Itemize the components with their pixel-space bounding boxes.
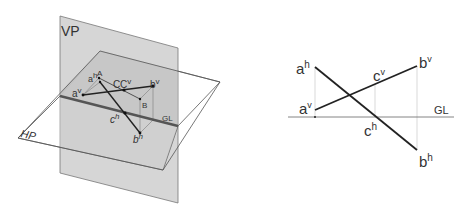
- gl-label-right: GL: [434, 104, 449, 116]
- label-b-h-right: bh: [419, 152, 433, 170]
- label-c-h-right: ch: [364, 121, 377, 139]
- hp-label: HP: [20, 127, 38, 142]
- projection-diagram: VP HP GL A B av ah C Cv bv ch bh GL ah a…: [0, 0, 463, 219]
- vp-label: VP: [61, 23, 80, 39]
- gl-label-left: GL: [162, 114, 173, 123]
- label-b-v-right: bv: [419, 54, 432, 71]
- label-a-h-right: ah: [296, 59, 310, 77]
- orthographic-view: GL ah av cv bv ch bh: [288, 54, 454, 170]
- label-a-v-right: av: [299, 100, 312, 117]
- label-B: B: [142, 101, 147, 110]
- pictorial-view: VP HP GL A B av ah C Cv bv ch bh: [18, 16, 220, 203]
- label-c-v-right: cv: [373, 67, 386, 84]
- label-A: A: [97, 69, 103, 78]
- front-view-line-right: [315, 66, 417, 110]
